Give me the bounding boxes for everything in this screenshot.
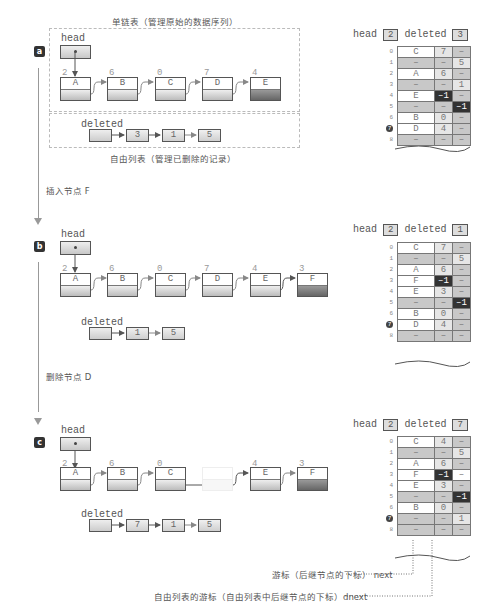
deleted-value: 1 [452, 224, 467, 236]
head-pointer-box [60, 437, 91, 451]
list-node-c: C [155, 467, 186, 491]
head-label: head [61, 425, 85, 436]
list-node-a: A [60, 273, 91, 297]
deleted-pointer-box [89, 129, 112, 142]
list-node-c: C [155, 273, 186, 297]
free-node: 5 [162, 327, 185, 340]
list-node-f-tail: F [297, 273, 328, 297]
deleted-node-ghost [202, 467, 233, 491]
free-node: 7 [126, 519, 149, 532]
list-node-c: C [155, 77, 186, 101]
free-node: 1 [126, 327, 149, 340]
free-node: 1 [162, 129, 185, 142]
deleted-label: deleted [404, 224, 446, 235]
panel-c-badge: c [34, 437, 45, 448]
panel-b-badge: b [34, 241, 45, 252]
list-node-b: B [107, 273, 138, 297]
head-label: head [353, 224, 377, 235]
list-node-b: B [107, 467, 138, 491]
list-node-a: A [60, 77, 91, 101]
legend-next: 游标（后继节点的下标） next [272, 568, 393, 580]
legend-dnext: 自由列表的游标（自由列表中后继节点的下标）dnext [154, 590, 367, 602]
head-pointer-box [60, 241, 91, 255]
free-node: 3 [126, 129, 149, 142]
free-node: 5 [198, 519, 221, 532]
list-node-e: E [250, 467, 281, 491]
head-value: 2 [383, 29, 398, 41]
head-label: head [353, 419, 377, 430]
deleted-label: deleted [404, 29, 446, 40]
list-node-b: B [107, 77, 138, 101]
deleted-pointer-box [89, 327, 112, 340]
list-node-d: D [202, 273, 233, 297]
head-value: 2 [383, 224, 398, 236]
deleted-label: deleted [404, 419, 446, 430]
table-header-b: head 2 deleted 1 [353, 224, 468, 236]
table-header-a: head 2 deleted 3 [353, 29, 468, 41]
array-table-b: 0C7– 1––5 2A6– 3F–1– 4E3– 5–––1 6B0– 7D4… [379, 242, 471, 342]
deleted-pointer-box [89, 519, 112, 532]
head-label: head [61, 229, 85, 240]
table-header-c: head 2 deleted 7 [353, 419, 468, 431]
head-value: 2 [383, 419, 398, 431]
list-node-e: E [250, 273, 281, 297]
list-node-a: A [60, 467, 91, 491]
array-table-c: 0C4– 1––5 2A6– 3F–1– 4E3– 5–––1 6B0– 7––… [379, 436, 471, 536]
free-node: 1 [162, 519, 185, 532]
deleted-value: 7 [452, 419, 467, 431]
list-node-f-tail: F [297, 467, 328, 491]
list-node-d: D [202, 77, 233, 101]
free-node: 5 [198, 129, 221, 142]
deleted-value: 3 [452, 29, 467, 41]
list-node-e-tail: E [250, 77, 281, 101]
array-table-a: 0C7– 1––5 2A6– 3––1 4E–1– 5–––1 6B0– 7D4… [379, 46, 471, 146]
head-label: head [353, 29, 377, 40]
